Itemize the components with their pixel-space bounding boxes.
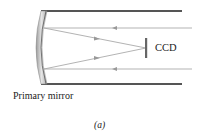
figure-caption: (a) <box>94 121 105 131</box>
arrow-icon <box>112 67 117 71</box>
primary-mirror-icon <box>36 11 47 84</box>
primary-mirror-label: Primary mirror <box>13 91 73 101</box>
telescope-diagram: CCD Primary mirror (a) <box>0 0 201 134</box>
arrow-icon <box>94 56 100 60</box>
arrow-icon <box>112 26 117 30</box>
ccd-detector-icon <box>145 38 147 58</box>
ccd-label: CCD <box>155 43 177 54</box>
telescope-drawing <box>0 0 201 134</box>
